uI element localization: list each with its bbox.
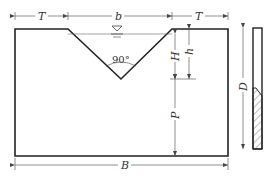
label-D: D xyxy=(237,82,250,92)
weir-diagram: 90° T b T H h P B xyxy=(0,0,276,183)
notch-angle: 90° xyxy=(106,54,136,66)
label-T-right: T xyxy=(195,10,204,23)
label-P: P xyxy=(169,111,182,120)
label-B: B xyxy=(120,159,129,172)
weir-plate xyxy=(15,29,228,156)
label-h: h xyxy=(183,48,196,55)
label-T-left: T xyxy=(38,10,47,23)
label-b: b xyxy=(115,10,122,23)
label-H: H xyxy=(169,51,182,62)
water-surface xyxy=(68,26,172,37)
water-level-icon xyxy=(112,26,122,31)
side-section xyxy=(253,28,262,149)
angle-label: 90° xyxy=(112,54,130,65)
